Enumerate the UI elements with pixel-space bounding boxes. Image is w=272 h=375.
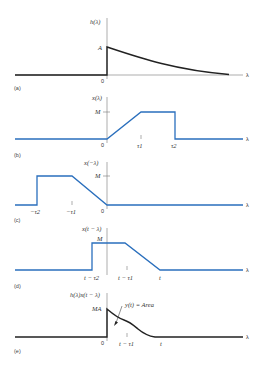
x-reversed [15, 176, 243, 205]
level-d: M [96, 235, 103, 242]
x-signal [15, 112, 243, 139]
tick-tau1: τ1 [137, 142, 143, 149]
panel-b: x(λ) M 0 τ1 τ2 λ (b) [14, 94, 249, 158]
tick-t: t [159, 274, 161, 281]
panel-label-c: (c) [14, 217, 21, 223]
ylabel-c: x(−λ) [83, 159, 98, 167]
ylabel-a: h(λ) [90, 18, 100, 26]
panel-label-e: (e) [14, 348, 21, 354]
xlabel-e: λ [246, 334, 249, 340]
h-curve [15, 47, 229, 75]
ylabel-b: x(λ) [91, 94, 102, 102]
x-shifted [15, 243, 243, 270]
origin-e: 0 [101, 340, 104, 346]
arrowhead-icon [114, 321, 118, 326]
tick-t-tau1-e: t − τ1 [119, 340, 134, 347]
origin-b: 0 [101, 142, 104, 148]
panel-c: x(−λ) M 0 −τ2 −τ1 λ (c) [14, 159, 249, 223]
xlabel-a: λ [246, 72, 249, 78]
area-pointer [116, 306, 122, 323]
level-c: M [94, 172, 101, 179]
panel-a: h(λ) A 0 λ (a) [14, 18, 249, 91]
xlabel-d: λ [246, 267, 249, 273]
xlabel-b: λ [246, 136, 249, 142]
panel-label-a: (a) [14, 85, 21, 91]
panel-label-d: (d) [14, 283, 21, 289]
convolution-figure: h(λ) A 0 λ (a) x(λ) M 0 τ1 τ2 λ (b) x(−λ… [0, 0, 272, 375]
ylabel-d: x(t − λ) [81, 225, 101, 233]
tick-t-tau1: t − τ1 [118, 274, 133, 281]
product-curve [15, 309, 243, 337]
tick-t-tau2: t − τ2 [84, 274, 100, 281]
area-annotation: y(t) = Area [124, 301, 154, 309]
xlabel-c: λ [246, 202, 249, 208]
level-b: M [94, 108, 101, 115]
origin-a: 0 [101, 78, 104, 84]
tick-tau2: τ2 [171, 142, 177, 149]
panel-e: h(λ)x(t − λ) MA y(t) = Area 0 t − τ1 t λ… [14, 291, 249, 354]
level-e: MA [91, 305, 101, 312]
tick-t-e: t [160, 340, 162, 347]
panel-label-b: (b) [14, 152, 21, 158]
tick-neg-tau2: −τ2 [30, 208, 41, 215]
panel-d: x(t − λ) M t − τ2 t − τ1 t λ (d) [14, 225, 249, 289]
origin-c: 0 [101, 208, 104, 214]
ylabel-e: h(λ)x(t − λ) [70, 291, 100, 299]
tick-neg-tau1: −τ1 [66, 208, 76, 215]
level-a: A [97, 44, 102, 51]
